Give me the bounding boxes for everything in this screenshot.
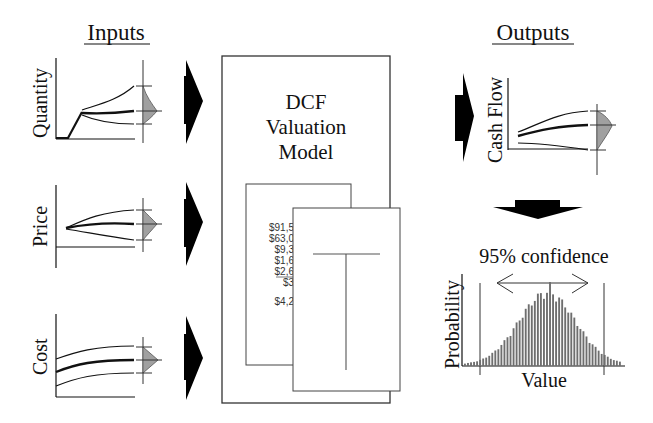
histogram-bar (540, 293, 542, 366)
histogram-bar (570, 313, 572, 366)
dcf-model-box: DCF Valuation Model $91,5 $63,0 $9,3 $1,… (222, 56, 400, 403)
histogram-bar (552, 294, 554, 366)
cash-flow-chart: Cash Flow (484, 76, 616, 175)
histogram-bar (610, 359, 612, 366)
dcf-monte-carlo-diagram: Inputs Quantity Price (0, 0, 653, 423)
histogram-bar (482, 358, 484, 366)
histogram-bar (531, 306, 533, 366)
arrow-right-icon (184, 60, 203, 144)
histogram-bar (579, 329, 581, 366)
histogram-bar (500, 345, 502, 366)
histogram-bar (595, 347, 597, 366)
model-title-line1: DCF (286, 90, 327, 114)
histogram-bar (488, 356, 490, 366)
histogram-bar (561, 299, 563, 366)
histogram-bar (586, 336, 588, 366)
histogram-bar (573, 318, 575, 366)
histogram-bar (564, 307, 566, 366)
histogram-bar (592, 344, 594, 366)
arrow-right-icon (184, 182, 203, 266)
arrow-right-icon (455, 73, 474, 162)
inputs-title: Inputs (84, 20, 150, 45)
arrow-down-icon (493, 200, 583, 219)
histogram-bar (583, 331, 585, 366)
histogram-bar (507, 337, 509, 366)
quantity-distribution-icon (136, 60, 162, 143)
quantity-label: Quantity (29, 68, 52, 138)
probability-label: Probability (441, 280, 464, 369)
price-chart: Price (29, 185, 162, 268)
model-title-line2: Valuation (266, 115, 347, 139)
histogram-bar (504, 340, 506, 366)
spreadsheet-value: $4,2 (275, 296, 295, 307)
histogram-bar (497, 349, 499, 366)
histogram-bar (589, 343, 591, 366)
histogram-bar (516, 322, 518, 366)
histogram-bar (546, 293, 548, 366)
histogram-bar (619, 362, 621, 366)
histogram-bar (476, 361, 478, 366)
spreadsheet-value: $91,5 (269, 222, 294, 233)
price-distribution-icon (136, 198, 162, 252)
histogram-bar (513, 328, 515, 366)
spreadsheet-value: $9,3 (275, 244, 295, 255)
probability-histogram: 95% confidence Probability Value (441, 245, 625, 391)
histogram-bar (567, 313, 569, 366)
quantity-chart: Quantity (29, 58, 162, 143)
histogram-bar (607, 357, 609, 366)
histogram-bar (522, 318, 524, 366)
histogram-bar (616, 361, 618, 366)
histogram-bar (601, 354, 603, 366)
outputs-title-text: Outputs (497, 20, 570, 45)
arrow-right-icon (184, 316, 203, 400)
model-title-line3: Model (279, 140, 334, 164)
histogram-bar (464, 364, 466, 366)
histogram-bar (528, 304, 530, 366)
histogram-bar (470, 362, 472, 366)
histogram-bar (494, 350, 496, 366)
cost-chart: Cost (29, 314, 162, 397)
histogram-bar (479, 360, 481, 366)
model-front-page (293, 208, 400, 391)
outputs-title: Outputs (492, 20, 574, 45)
value-label: Value (521, 369, 567, 391)
cash-flow-distribution-icon (590, 104, 616, 175)
histogram-bar (613, 360, 615, 366)
histogram-bar (519, 320, 521, 366)
histogram-bar (534, 301, 536, 366)
inputs-title-text: Inputs (87, 20, 145, 45)
histogram-bar (543, 299, 545, 366)
histogram-bar (537, 294, 539, 366)
cash-flow-label: Cash Flow (484, 76, 506, 163)
histogram-bar (558, 298, 560, 366)
price-label: Price (29, 206, 51, 247)
histogram-bar (467, 363, 469, 366)
cost-distribution-icon (136, 337, 162, 384)
histogram-bar (525, 309, 527, 366)
confidence-annotation: 95% confidence (479, 245, 609, 267)
histogram-bar (510, 336, 512, 366)
histogram-bar (485, 358, 487, 366)
histogram-bar (604, 355, 606, 366)
histogram-bar (598, 351, 600, 366)
double-arrow-icon (497, 274, 588, 293)
histogram-bars (464, 282, 621, 366)
histogram-bar (473, 362, 475, 366)
histogram-bar (576, 326, 578, 366)
histogram-bar (549, 282, 551, 366)
histogram-bar (555, 302, 557, 366)
histogram-bar (491, 353, 493, 366)
spreadsheet-value: $1,6 (275, 255, 295, 266)
spreadsheet-value: $2,6 (275, 266, 295, 277)
spreadsheet-value: $63,0 (269, 233, 294, 244)
cost-label: Cost (29, 338, 51, 375)
